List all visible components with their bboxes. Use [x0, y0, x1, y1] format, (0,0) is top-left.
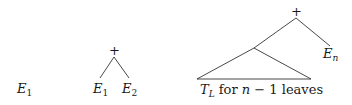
edge-plus-to-e2: [114, 57, 129, 78]
case3-plus-node: +: [291, 5, 302, 18]
edge-plus-to-en: [296, 18, 330, 46]
case3-subtree-label: TL for n − 1 leaves: [200, 83, 323, 96]
case2-plus-node: +: [109, 44, 120, 57]
case2-leaf-e2: E2: [122, 82, 137, 95]
case3-leaf-en: En: [323, 47, 338, 60]
case2-leaf-e1: E1: [93, 82, 108, 95]
case1-leaf-e1: E1: [17, 82, 32, 95]
edge-plus-to-subtree: [254, 18, 296, 48]
subtree-triangle: [197, 48, 311, 79]
edge-plus-to-e1: [100, 57, 114, 78]
